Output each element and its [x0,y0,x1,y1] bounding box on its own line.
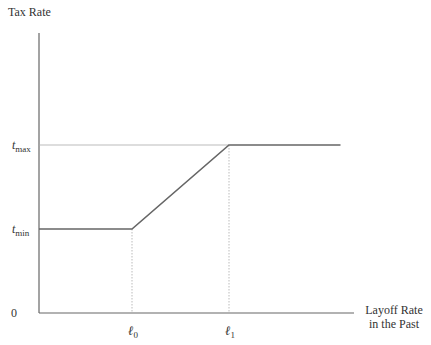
y-axis-label: Tax Rate [8,5,51,19]
x-tick-label-l1: ℓ1 [225,323,235,340]
origin-label: 0 [11,306,17,320]
x-tick-label-l0: ℓ0 [128,323,138,340]
x-axis-label-line-2: in the Past [369,317,420,331]
tax-schedule-line [39,145,341,229]
chart: Tax Rate 0 Layoff Rate in the Past tmint… [0,0,431,345]
y-tick-label-tmin: tmin [12,222,30,238]
x-axis-label-line-1: Layoff Rate [365,303,422,317]
y-tick-label-tmax: tmax [12,138,31,154]
